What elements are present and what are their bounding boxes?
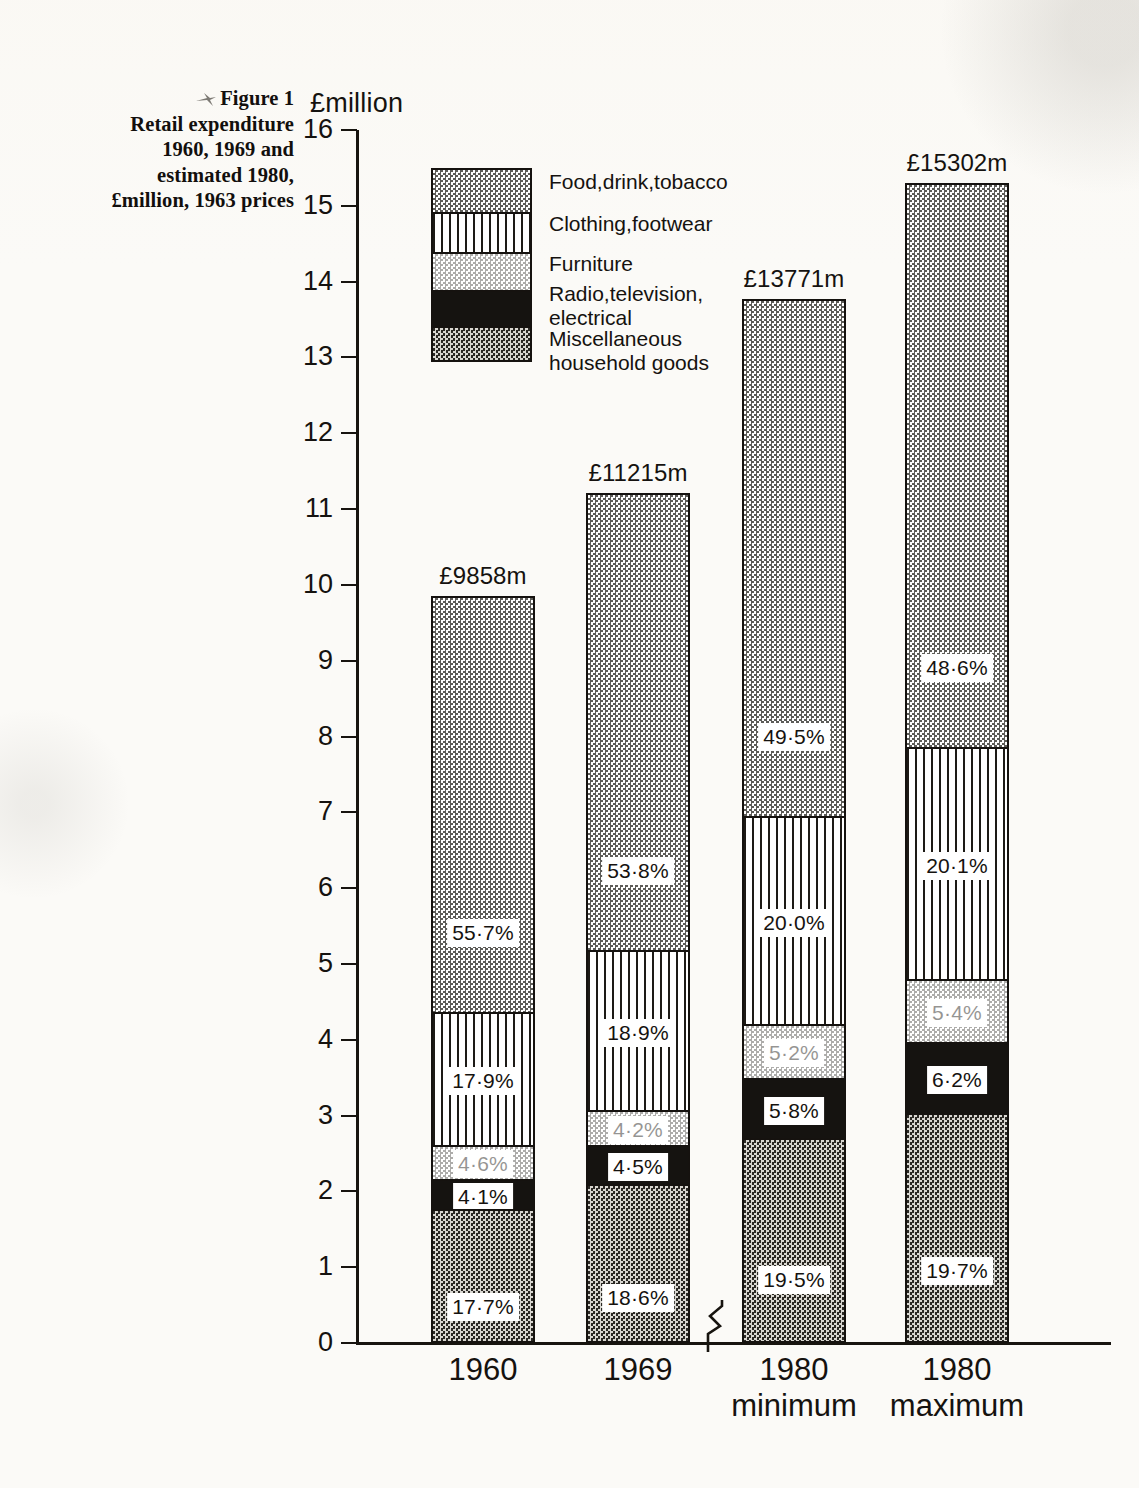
- bar-segment-percent-label: 53·8%: [602, 857, 674, 885]
- bar-total-label: £11215m: [546, 459, 730, 487]
- y-tick-label-10: 10: [289, 571, 333, 598]
- y-tick-label-15: 15: [289, 192, 333, 219]
- y-tick-label-16: 16: [289, 116, 333, 143]
- bar-segment-percent-label: 4·1%: [453, 1183, 513, 1209]
- y-tick-mark-16: [341, 129, 357, 131]
- bar-segment-misc[interactable]: 19·5%: [744, 1138, 844, 1341]
- y-tick-label-3: 3: [289, 1102, 333, 1129]
- bar-total-label: £13771m: [702, 265, 886, 293]
- bar-total-label: £15302m: [865, 149, 1049, 177]
- bar-segment-percent-label: 19·7%: [921, 1257, 993, 1285]
- stacked-bar[interactable]: 53·8%18·9%4·2%4·5%18·6%: [586, 493, 690, 1343]
- y-tick-mark-9: [341, 660, 357, 662]
- bar-segment-percent-label: 18·9%: [602, 1019, 674, 1047]
- bar-segment-misc[interactable]: 19·7%: [907, 1113, 1007, 1341]
- bar-segment-clothing[interactable]: 20·0%: [744, 816, 844, 1024]
- legend-swatch-misc: [433, 326, 530, 360]
- y-tick-label-12: 12: [289, 419, 333, 446]
- bar-segment-misc[interactable]: 17·7%: [433, 1209, 533, 1341]
- y-tick-mark-13: [341, 356, 357, 358]
- y-tick-mark-6: [341, 887, 357, 889]
- y-tick-label-11: 11: [289, 495, 333, 522]
- legend-swatch-furniture: [433, 252, 530, 290]
- bar-segment-percent-label: 18·6%: [602, 1284, 674, 1312]
- bar-segment-radio[interactable]: 6·2%: [907, 1042, 1007, 1114]
- y-tick-label-4: 4: [289, 1026, 333, 1053]
- y-tick-label-5: 5: [289, 950, 333, 977]
- bar-segment-percent-label: 4·2%: [608, 1116, 668, 1144]
- y-tick-mark-3: [341, 1115, 357, 1117]
- y-tick-label-9: 9: [289, 647, 333, 674]
- bar-segment-clothing[interactable]: 18·9%: [588, 950, 688, 1110]
- bar-segment-percent-label: 5·4%: [927, 999, 987, 1027]
- legend-swatch-stack: [431, 168, 532, 362]
- y-tick-mark-15: [341, 205, 357, 207]
- bar-segment-radio[interactable]: 5·8%: [744, 1078, 844, 1138]
- bar-segment-radio[interactable]: 4·1%: [433, 1179, 533, 1209]
- bar-segment-percent-label: 4·5%: [608, 1153, 668, 1181]
- y-tick-mark-14: [341, 281, 357, 283]
- bar-segment-furniture[interactable]: 4·2%: [588, 1110, 688, 1146]
- bar-segment-percent-label: 17·9%: [447, 1067, 519, 1095]
- bar-segment-clothing[interactable]: 20·1%: [907, 747, 1007, 979]
- y-tick-label-14: 14: [289, 268, 333, 295]
- bar-segment-food[interactable]: 48·6%: [907, 185, 1007, 747]
- bar-segment-percent-label: 49·5%: [758, 723, 830, 751]
- bar-segment-percent-label: 17·7%: [447, 1293, 519, 1321]
- legend-swatch-clothing: [433, 212, 530, 252]
- y-tick-mark-1: [341, 1266, 357, 1268]
- legend-label-misc: Miscellaneous household goods: [549, 327, 709, 375]
- legend-label-clothing: Clothing,footwear: [549, 212, 712, 236]
- y-tick-mark-2: [341, 1190, 357, 1192]
- y-tick-label-0: 0: [289, 1329, 333, 1356]
- y-tick-mark-0: [341, 1342, 357, 1344]
- y-tick-label-1: 1: [289, 1253, 333, 1280]
- bar-segment-misc[interactable]: 18·6%: [588, 1184, 688, 1341]
- bar-segment-furniture[interactable]: 4·6%: [433, 1145, 533, 1179]
- bar-segment-food[interactable]: 49·5%: [744, 301, 844, 816]
- bar-segment-percent-label: 5·8%: [764, 1097, 824, 1125]
- legend-swatch-radio: [433, 290, 530, 326]
- stacked-bar[interactable]: 55·7%17·9%4·6%4·1%17·7%: [431, 596, 535, 1343]
- chart-canvas: £million 161514131211109876543210 55·7%1…: [0, 0, 1139, 1488]
- bar-segment-percent-label: 6·2%: [927, 1066, 987, 1094]
- bar-segment-percent-label: 5·2%: [764, 1039, 824, 1067]
- legend-label-furniture: Furniture: [549, 252, 633, 276]
- bar-segment-food[interactable]: 55·7%: [433, 598, 533, 1012]
- y-tick-label-13: 13: [289, 343, 333, 370]
- legend-swatch-food: [433, 170, 530, 212]
- axis-break-zigzag-icon: [700, 1300, 740, 1352]
- bar-segment-percent-label: 19·5%: [758, 1266, 830, 1294]
- legend-label-food: Food,drink,tobacco: [549, 170, 728, 194]
- x-axis-label-year: 1980: [857, 1352, 1057, 1388]
- stacked-bar[interactable]: 49·5%20·0%5·2%5·8%19·5%: [742, 299, 846, 1343]
- stacked-bar[interactable]: 48·6%20·1%5·4%6·2%19·7%: [905, 183, 1009, 1343]
- y-tick-mark-11: [341, 508, 357, 510]
- y-tick-label-6: 6: [289, 874, 333, 901]
- y-tick-mark-12: [341, 432, 357, 434]
- legend-label-radio: Radio,television, electrical: [549, 282, 703, 330]
- bar-segment-percent-label: 48·6%: [921, 654, 993, 682]
- bar-total-label: £9858m: [391, 562, 575, 590]
- y-tick-mark-7: [341, 811, 357, 813]
- bar-segment-percent-label: 4·6%: [453, 1150, 513, 1178]
- y-tick-mark-5: [341, 963, 357, 965]
- bar-segment-percent-label: 55·7%: [447, 919, 519, 947]
- y-tick-mark-4: [341, 1039, 357, 1041]
- y-tick-label-7: 7: [289, 798, 333, 825]
- bar-segment-percent-label: 20·0%: [758, 909, 830, 937]
- bar-segment-furniture[interactable]: 5·4%: [907, 979, 1007, 1041]
- bar-segment-percent-label: 20·1%: [921, 852, 993, 880]
- bar-segment-food[interactable]: 53·8%: [588, 495, 688, 950]
- y-tick-label-8: 8: [289, 723, 333, 750]
- y-tick-mark-10: [341, 584, 357, 586]
- bar-segment-furniture[interactable]: 5·2%: [744, 1024, 844, 1078]
- bar-segment-radio[interactable]: 4·5%: [588, 1145, 688, 1183]
- y-tick-mark-8: [341, 736, 357, 738]
- x-axis-label-qualifier: maximum: [857, 1388, 1057, 1424]
- y-tick-label-2: 2: [289, 1177, 333, 1204]
- bar-segment-clothing[interactable]: 17·9%: [433, 1012, 533, 1145]
- x-axis-label-3: 1980maximum: [857, 1352, 1057, 1424]
